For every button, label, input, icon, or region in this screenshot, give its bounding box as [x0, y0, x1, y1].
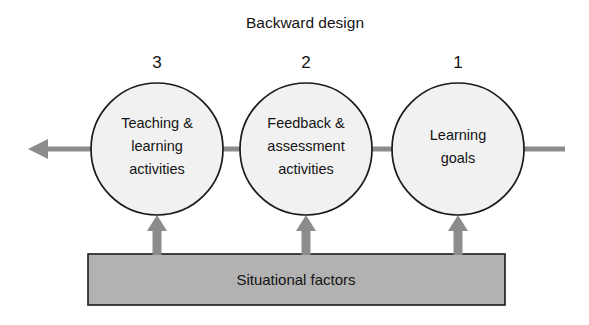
support-arrow-teaching-icon	[147, 215, 167, 255]
flow-arrowhead	[28, 139, 48, 159]
support-arrow-head	[448, 215, 468, 231]
diagram-canvas: Backward design 3 2 1 Teaching & learnin…	[0, 0, 589, 325]
backward-design-diagram: Backward design 3 2 1 Teaching & learnin…	[0, 0, 589, 325]
node-circle-learning-goals[interactable]	[392, 83, 524, 215]
node-label-line: Teaching &	[121, 115, 193, 131]
node-label-line: activities	[278, 161, 334, 177]
node-label-line: activities	[129, 161, 185, 177]
node-label-feedback-assessment-activities: Feedback & assessment activities	[267, 115, 345, 177]
step-number-feedback: 2	[301, 53, 310, 72]
support-arrow-shaft	[454, 228, 463, 255]
diagram-title: Backward design	[246, 14, 364, 31]
support-arrow-feedback-icon	[296, 215, 316, 255]
step-number-teaching: 3	[152, 53, 161, 72]
step-number-goals: 1	[453, 53, 462, 72]
node-label-line: learning	[131, 138, 183, 154]
node-label-line: Feedback &	[267, 115, 345, 131]
support-arrow-shaft	[302, 228, 311, 255]
node-label-line: Learning	[430, 127, 486, 143]
node-label-line: assessment	[267, 138, 344, 154]
support-arrow-shaft	[153, 228, 162, 255]
node-label-teaching-learning-activities: Teaching & learning activities	[121, 115, 193, 177]
support-arrow-head	[147, 215, 167, 231]
node-label-line: goals	[441, 150, 476, 166]
situational-factors-label: Situational factors	[236, 271, 355, 288]
support-arrow-head	[296, 215, 316, 231]
support-arrow-goals-icon	[448, 215, 468, 255]
